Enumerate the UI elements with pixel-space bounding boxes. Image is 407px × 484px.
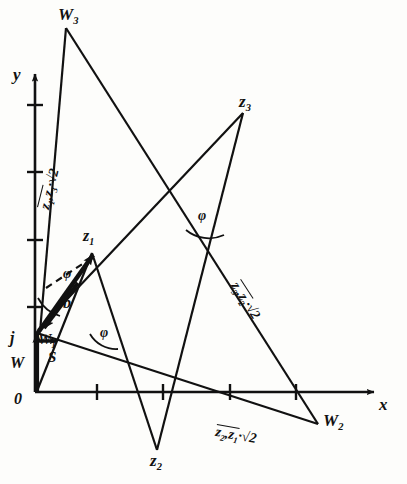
axis-origin-label: 0	[14, 391, 22, 407]
angle-label-phi-origin: φ	[63, 267, 71, 281]
angle-arc-right	[186, 230, 224, 238]
annotation-label-b: b	[63, 295, 71, 311]
point-label-z3: z3	[239, 93, 251, 114]
construction-lines	[37, 28, 318, 450]
vector-b	[44, 283, 78, 328]
angle-label-phi-mid: φ	[100, 326, 108, 340]
line-w3-to-w2	[66, 28, 318, 424]
point-label-w3: W3	[58, 6, 78, 27]
axis-label-x: x	[379, 396, 388, 413]
point-label-j: j	[10, 330, 14, 346]
point-label-w2: W2	[323, 412, 343, 433]
angle-label-phi-right: φ	[198, 209, 206, 223]
axis-label-y: y	[13, 66, 21, 83]
point-label-w1: W1	[38, 332, 56, 350]
point-label-s: S	[48, 350, 56, 365]
point-label-w: W	[10, 355, 24, 371]
diagram-svg	[0, 0, 407, 484]
figure-canvas: W3 z3 z1 z2 W2 W1 j W S 0 y x φ φ φ b z1…	[0, 0, 407, 484]
point-label-z2: z2	[150, 452, 162, 473]
line-origin-to-w2	[37, 333, 318, 424]
point-label-z1: z1	[83, 228, 94, 247]
line-z1-to-z2	[92, 253, 157, 450]
segment-label-z2z1-overline: z2,z1	[214, 424, 240, 445]
segment-label-z2z1-suffix: ·√2	[237, 428, 258, 446]
segment-label-z1z3-suffix: ·√2	[43, 167, 62, 188]
